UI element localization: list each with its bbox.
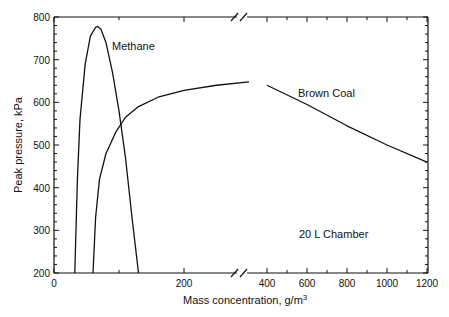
methane-curve — [75, 26, 139, 273]
curves — [75, 26, 427, 273]
x-axis-title: Mass concentration, g/m3 — [183, 293, 308, 306]
brown-coal-curve — [93, 82, 427, 273]
svg-text:800: 800 — [33, 12, 50, 23]
chamber-label: 20 L Chamber — [299, 228, 369, 240]
svg-text:700: 700 — [33, 55, 50, 66]
svg-text:200: 200 — [33, 268, 50, 279]
svg-text:400: 400 — [33, 183, 50, 194]
methane-label: Methane — [112, 40, 155, 52]
brown-coal-label: Brown Coal — [298, 87, 355, 99]
y-axis-title: Peak pressure, kPa — [12, 96, 24, 193]
svg-text:0: 0 — [51, 278, 57, 289]
chart: 2003004005006007008000200400600800100012… — [0, 0, 449, 317]
svg-text:300: 300 — [33, 225, 50, 236]
svg-text:600: 600 — [33, 97, 50, 108]
svg-text:600: 600 — [299, 278, 316, 289]
svg-text:1200: 1200 — [416, 278, 439, 289]
svg-text:400: 400 — [259, 278, 276, 289]
svg-text:1000: 1000 — [376, 278, 399, 289]
svg-text:500: 500 — [33, 140, 50, 151]
svg-text:800: 800 — [339, 278, 356, 289]
svg-text:200: 200 — [176, 278, 193, 289]
